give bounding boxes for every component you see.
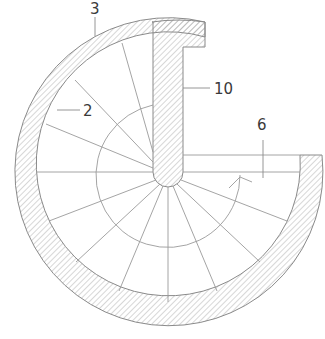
label-10: 10	[214, 80, 233, 98]
label-6: 6	[257, 116, 267, 134]
label-2: 2	[83, 102, 93, 120]
label-3: 3	[90, 0, 100, 18]
direction-arrow-icon	[229, 177, 252, 188]
central-wall	[152, 20, 205, 187]
staircase-plan-drawing: 3 2 10 6	[0, 0, 325, 339]
